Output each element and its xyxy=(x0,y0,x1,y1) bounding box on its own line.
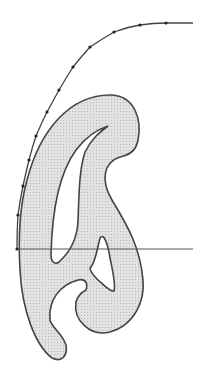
french-curve-diagram xyxy=(0,0,207,379)
french-curve-shape xyxy=(19,95,143,359)
